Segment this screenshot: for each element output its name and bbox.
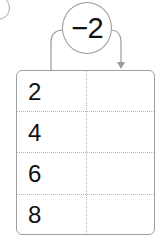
operation-label: −2 bbox=[71, 14, 102, 43]
right-connector-line bbox=[112, 30, 121, 62]
output-cell[interactable] bbox=[87, 153, 154, 194]
input-cell: 6 bbox=[17, 153, 87, 194]
input-cell: 2 bbox=[17, 71, 87, 112]
input-cell: 4 bbox=[17, 112, 87, 153]
output-cell[interactable] bbox=[87, 112, 154, 153]
table-row: 6 bbox=[17, 153, 154, 194]
operation-circle: −2 bbox=[62, 2, 112, 54]
input-cell: 8 bbox=[17, 194, 87, 235]
output-cell[interactable] bbox=[87, 71, 154, 112]
arrow-down-icon bbox=[117, 62, 125, 69]
table-row: 2 bbox=[17, 71, 154, 112]
input-output-table: 2 4 6 8 bbox=[16, 70, 155, 235]
table-row: 8 bbox=[17, 194, 154, 235]
table-row: 4 bbox=[17, 112, 154, 153]
output-cell[interactable] bbox=[87, 194, 154, 235]
left-connector-line bbox=[51, 30, 62, 70]
